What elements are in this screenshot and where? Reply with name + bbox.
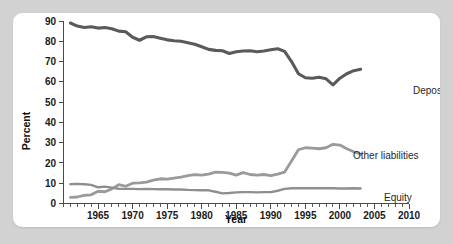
x-tick-label: 1970: [121, 210, 144, 221]
x-tick-label: 1995: [294, 210, 317, 221]
y-tick-label: 40: [45, 117, 57, 128]
line-chart: Percent 0102030405060708090 196519701975…: [13, 13, 440, 227]
y-tick-label: 10: [45, 178, 57, 189]
series-group: [70, 23, 360, 197]
series-label-deposits: Deposits: [413, 85, 440, 96]
y-tick-label: 20: [45, 158, 57, 169]
y-tick-label: 30: [45, 137, 57, 148]
x-tick-label: 1990: [260, 210, 283, 221]
series-label-equity: Equity: [384, 192, 412, 203]
x-tick-label: 1980: [191, 210, 214, 221]
y-tick-label: 60: [45, 76, 57, 87]
y-tick-label: 70: [45, 56, 57, 67]
series-line-equity: [70, 184, 360, 194]
chart-card: Percent 0102030405060708090 196519701975…: [13, 13, 440, 227]
x-tick-label: 1965: [87, 210, 110, 221]
y-tick-label: 80: [45, 36, 57, 47]
y-tick-group: 0102030405060708090: [45, 16, 64, 210]
y-axis-title: Percent: [20, 111, 32, 150]
series-line-deposits: [70, 23, 360, 85]
y-tick-label: 50: [45, 97, 57, 108]
y-tick-label: 0: [50, 198, 56, 209]
x-tick-label: 1975: [156, 210, 179, 221]
series-label-other-liabilities: Other liabilities: [353, 150, 419, 161]
x-tick-label: 2010: [398, 210, 421, 221]
x-tick-label: 2005: [363, 210, 386, 221]
series-label-group: DepositsOther liabilitiesEquity: [353, 85, 440, 203]
x-tick-label: 2000: [329, 210, 352, 221]
x-tick-group: 1965197019751980198519901995200020052010: [87, 204, 421, 222]
x-axis-title: Year: [225, 213, 247, 225]
y-tick-label: 90: [45, 16, 57, 27]
